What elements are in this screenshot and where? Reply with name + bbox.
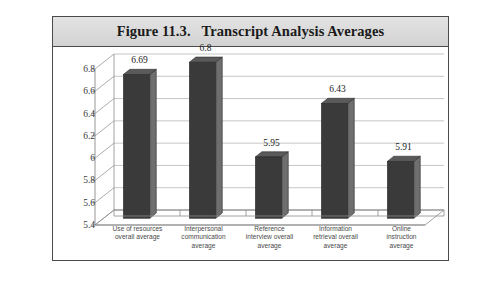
bar-side-face (150, 69, 157, 218)
figure-header: Figure 11.3. Transcript Analysis Average… (53, 17, 448, 47)
bar-4 (321, 98, 354, 218)
figure-frame: Figure 11.3. Transcript Analysis Average… (52, 16, 449, 261)
bar-side-face (348, 98, 355, 218)
bar-side-face (414, 156, 421, 218)
page-title: Figure 11.3. Transcript Analysis Average… (117, 23, 384, 40)
y-axis-tick-label: 6.6 (61, 86, 95, 96)
bar-front-face (255, 157, 281, 218)
bar-value-label-1: 6.69 (131, 55, 148, 65)
gridline-depth-connector (95, 76, 114, 91)
bar-chart: 5.45.65.866.26.46.66.8 Use of resourceso… (53, 47, 448, 260)
bar-value-label-3: 5.95 (263, 138, 280, 148)
gridline-depth-connector (95, 54, 114, 69)
x-axis-category-label-1: Use of resourcesoverall average (105, 225, 171, 242)
bar-front-face (123, 75, 149, 219)
bar-front-face (321, 103, 347, 218)
bar-value-label-5: 5.91 (395, 142, 412, 152)
bar-value-label-4: 6.43 (329, 84, 346, 94)
gridline-depth-connector (95, 121, 114, 136)
y-axis-tick-label: 6.4 (61, 109, 95, 119)
gridline-depth-connector (95, 143, 114, 158)
bar-side-face (282, 152, 289, 218)
y-axis-tick-label: 6 (61, 153, 95, 163)
bar-1 (123, 69, 156, 218)
gridline-depth-connector (95, 188, 114, 203)
bar-side-face (216, 57, 223, 218)
bar-value-label-2: 6.8 (200, 43, 212, 53)
gridline-depth-connector (95, 99, 114, 114)
y-axis-tick-label: 5.4 (61, 220, 95, 230)
bar-front-face (189, 62, 215, 218)
bar-3 (255, 152, 288, 218)
x-axis-category-label-5: Onlineinstructionaverage (369, 225, 435, 250)
x-axis-category-label-2: Interpersonalcommunicationaverage (171, 225, 237, 250)
x-axis-category-label-3: Referenceinterview overallaverage (237, 225, 303, 250)
bar-front-face (387, 161, 413, 218)
bar-5 (387, 156, 420, 218)
y-axis-tick-label: 5.8 (61, 175, 95, 185)
y-axis-tick-label: 6.2 (61, 131, 95, 141)
x-axis-category-label-4: Informationretrieval overallaverage (303, 225, 369, 250)
y-axis-tick-labels: 5.45.65.866.26.46.66.8 (53, 47, 95, 260)
y-axis-tick-label: 5.6 (61, 198, 95, 208)
y-axis-tick-label: 6.8 (61, 64, 95, 74)
bar-2 (189, 57, 222, 218)
gridline-depth-connector (95, 165, 114, 180)
